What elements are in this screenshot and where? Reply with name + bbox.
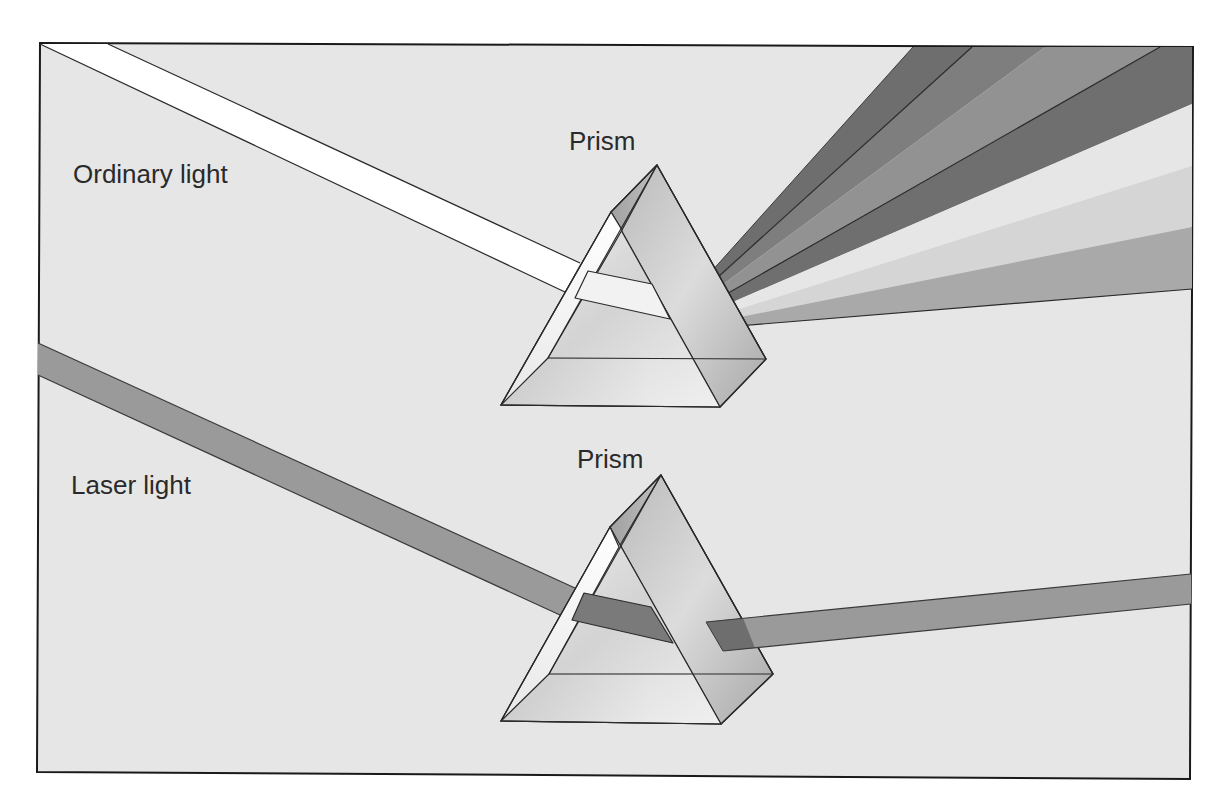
laser-light-label: Laser light <box>71 470 192 500</box>
bottom-prism-label: Prism <box>577 444 643 474</box>
top-prism-label: Prism <box>569 126 635 156</box>
ordinary-light-label: Ordinary light <box>73 159 228 189</box>
prism-dispersion-diagram: Ordinary light Prism Laser light Prism <box>0 0 1231 812</box>
